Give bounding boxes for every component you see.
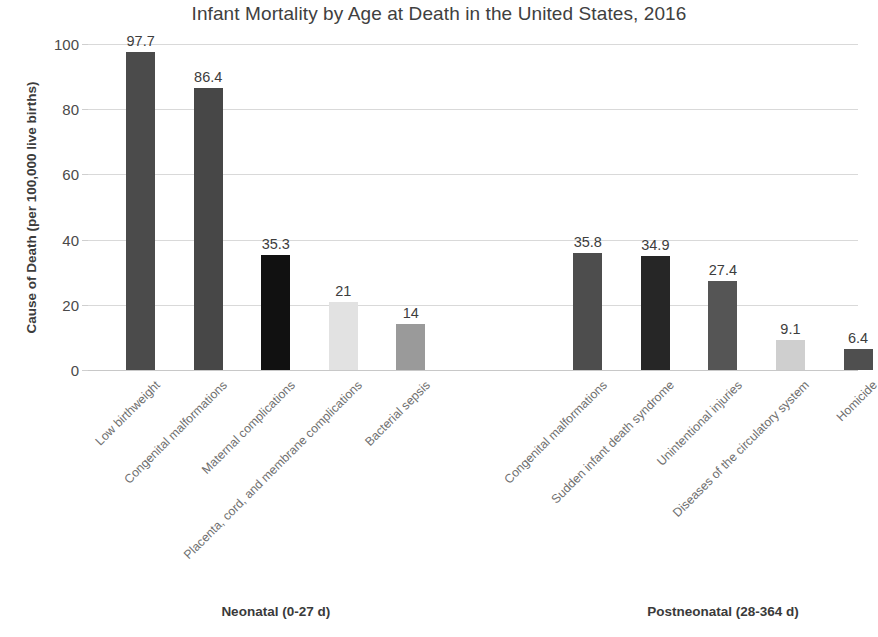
y-axis-tick-label: 40 xyxy=(62,231,79,248)
y-axis-title: Cause of Death (per 100,000 live births) xyxy=(24,43,39,373)
gridline xyxy=(88,44,858,45)
x-axis-category-label-text: Low birthweight xyxy=(92,378,162,448)
y-axis-tick-label: 80 xyxy=(62,101,79,118)
y-axis-tick-mark xyxy=(82,240,88,241)
x-axis-category-label-text: Homicide xyxy=(834,378,878,424)
chart-title: Infant Mortality by Age at Death in the … xyxy=(0,3,878,25)
bar-value-label: 21 xyxy=(335,283,351,299)
y-axis-tick-mark xyxy=(82,305,88,306)
y-axis-tick-label: 20 xyxy=(62,296,79,313)
bar[interactable]: 6.4 xyxy=(844,349,873,370)
bar[interactable]: 97.7 xyxy=(126,52,155,371)
y-axis-tick-mark xyxy=(82,109,88,110)
group-label: Neonatal (0-27 d) xyxy=(221,604,330,619)
bar[interactable]: 35.8 xyxy=(573,253,602,370)
y-axis-tick-label: 60 xyxy=(62,166,79,183)
bar-value-label: 27.4 xyxy=(709,262,737,278)
y-axis-tick-mark xyxy=(82,44,88,45)
y-axis-tick-mark xyxy=(82,370,88,371)
y-axis-tick-label: 0 xyxy=(71,362,79,379)
y-axis-tick-mark xyxy=(82,174,88,175)
group-label: Postneonatal (28-364 d) xyxy=(647,604,799,619)
bar-value-label: 35.3 xyxy=(262,236,290,252)
x-axis-category-label-text: Diseases of the circulatory system xyxy=(671,378,813,520)
y-axis-tick-label: 100 xyxy=(54,36,79,53)
bar-value-label: 35.8 xyxy=(574,234,602,250)
bar-value-label: 86.4 xyxy=(194,69,222,85)
x-axis-category-label-text: Bacterial sepsis xyxy=(362,378,433,449)
bar-value-label: 97.7 xyxy=(127,33,155,49)
x-axis-category-label-text: Sudden infant death syndrome xyxy=(549,378,677,506)
bar-chart: Infant Mortality by Age at Death in the … xyxy=(0,0,878,637)
bar-value-label: 34.9 xyxy=(641,237,669,253)
